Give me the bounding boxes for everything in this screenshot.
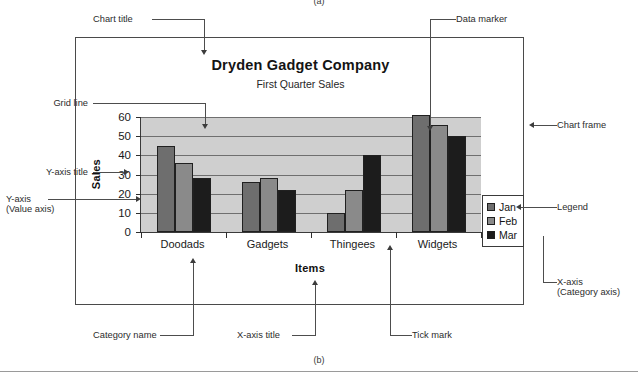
category-name-label: Widgets	[395, 238, 480, 254]
leader-category-name-v	[193, 263, 194, 335]
annotation-category-name: Category name	[93, 330, 157, 341]
chart-frame: Dryden Gadget Company First Quarter Sale…	[75, 37, 524, 305]
y-axis-tick-label: 60	[118, 111, 131, 123]
arrow-y-axis	[136, 196, 141, 202]
category-names: DoodadsGadgetsThingeesWidgets	[140, 238, 480, 254]
data-marker-bar[interactable]	[278, 190, 296, 232]
arrow-x-axis-title	[312, 280, 318, 285]
figure-label-b: (b)	[289, 355, 349, 365]
arrow-chart-title	[201, 50, 207, 55]
annotation-data-marker: Data marker	[456, 14, 507, 25]
annotation-chart-frame: Chart frame	[557, 120, 606, 131]
leader-chart-title-h	[152, 19, 205, 20]
legend-label: Mar	[499, 229, 517, 241]
leader-data-marker-h	[430, 19, 456, 20]
annotation-chart-title: Chart title	[93, 14, 133, 25]
data-marker-bar[interactable]	[363, 155, 381, 232]
leader-grid-line-h	[93, 103, 206, 104]
data-marker-bar[interactable]	[260, 178, 278, 232]
arrow-grid-line	[202, 124, 208, 129]
annotation-tick-mark: Tick mark	[412, 330, 452, 341]
category-name-label: Gadgets	[225, 238, 310, 254]
data-marker-bar[interactable]	[430, 125, 448, 232]
annotation-y-axis-title: Y-axis title	[8, 167, 88, 178]
leader-y-axis-title-h	[93, 172, 125, 173]
legend-swatch	[487, 217, 495, 225]
y-axis-tick-label: 40	[118, 149, 131, 161]
annotation-legend: Legend	[557, 202, 588, 213]
data-marker-bar[interactable]	[175, 163, 193, 232]
leader-tick-mark-h	[390, 335, 412, 336]
annotation-x-axis-line2: (Category axis)	[557, 287, 620, 298]
data-marker-bar[interactable]	[412, 115, 430, 232]
data-marker-bar[interactable]	[345, 190, 363, 232]
category-name-label: Doodads	[140, 238, 225, 254]
legend-swatch	[487, 231, 495, 239]
data-marker-bar[interactable]	[327, 213, 345, 232]
bar-group	[141, 117, 226, 232]
y-axis-tick-label: 10	[118, 207, 131, 219]
annotation-x-axis-title: X-axis title	[237, 330, 280, 341]
data-marker-bar[interactable]	[193, 178, 211, 232]
leader-category-name-h	[160, 335, 194, 336]
legend-label: Jan	[499, 201, 516, 213]
legend-item[interactable]: Mar	[487, 228, 517, 242]
leader-grid-line-v	[205, 103, 206, 125]
plot-area	[140, 117, 481, 233]
page-bottom-rule	[0, 371, 638, 372]
arrow-category-name	[190, 258, 196, 263]
x-axis-title: Items	[140, 262, 480, 274]
bar-group	[311, 117, 396, 232]
chart-title: Dryden Gadget Company	[76, 57, 525, 73]
y-axis-tick-label: 50	[118, 130, 131, 142]
data-marker-bar[interactable]	[242, 182, 260, 232]
leader-y-axis-h	[48, 199, 137, 200]
y-axis-tick-label: 20	[118, 188, 131, 200]
figure-label-a: (a)	[289, 0, 349, 6]
legend-item[interactable]: Feb	[487, 214, 517, 228]
arrow-legend	[516, 204, 521, 210]
plot-area-wrapper: 0102030405060	[140, 117, 480, 232]
leader-x-axis-title-h	[292, 335, 316, 336]
bar-group	[226, 117, 311, 232]
figure-page: (a) (b) Dryden Gadget Company First Quar…	[0, 0, 638, 378]
legend-swatch	[487, 203, 495, 211]
leader-tick-mark-v	[390, 250, 391, 335]
bar-groups	[141, 117, 481, 232]
annotation-y-axis-line2: (Value axis)	[6, 204, 54, 215]
arrow-chart-frame	[529, 122, 534, 128]
y-axis-title: Sales	[90, 159, 102, 189]
chart-subtitle: First Quarter Sales	[76, 78, 525, 90]
annotation-grid-line: Grid line	[26, 98, 88, 109]
arrow-tick-mark	[387, 245, 393, 250]
leader-chart-title-v	[204, 19, 205, 51]
arrow-y-axis-title	[124, 169, 129, 175]
legend-label: Feb	[499, 215, 517, 227]
leader-x-axis-title-v	[315, 285, 316, 335]
leader-data-marker-v	[430, 19, 431, 127]
y-axis-tick-label: 0	[125, 226, 131, 238]
data-marker-bar[interactable]	[157, 146, 175, 232]
data-marker-bar[interactable]	[448, 136, 466, 232]
leader-chart-frame-h	[534, 125, 557, 126]
leader-legend-h	[521, 207, 557, 208]
leader-x-axis-v	[543, 236, 544, 282]
category-name-label: Thingees	[310, 238, 395, 254]
leader-x-axis-h	[543, 282, 557, 283]
legend[interactable]: JanFebMar	[482, 195, 524, 247]
legend-item[interactable]: Jan	[487, 200, 517, 214]
arrow-data-marker	[427, 126, 433, 131]
bar-group	[396, 117, 481, 232]
